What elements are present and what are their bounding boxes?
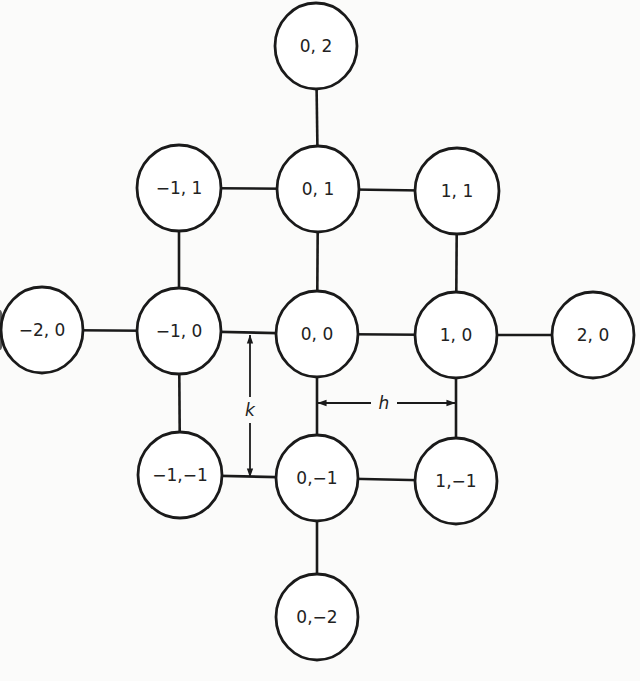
node-label: 0, 0 [301,324,333,344]
dimension-label-h: h [379,393,390,413]
node-label: 2, 0 [577,325,609,345]
node-label: 1, 0 [440,325,472,345]
node-label: 0,−1 [296,468,337,488]
grid-node-0_m1: 0,−1 [276,435,358,521]
grid-node-1_1: 1, 1 [415,148,499,234]
dimension-h: h [318,393,455,413]
node-label: −1, 0 [156,321,203,341]
node-label: 1, 1 [441,181,473,201]
grid-node-0_0: 0, 0 [276,291,358,377]
grid-node-1_m1: 1,−1 [415,438,497,524]
grid-node-0_1: 0, 1 [277,146,359,232]
dimension-label-k: k [245,400,256,420]
grid-node-m1_0: −1, 0 [137,288,221,374]
grid-node-0_m2: 0,−2 [276,574,358,660]
grid-node-m1_m1: −1,−1 [138,432,222,518]
grid-node-m2_0: −2, 0 [1,287,83,373]
grid-node-0_2: 0, 2 [275,3,357,89]
node-label: 0,−2 [296,607,337,627]
finite-difference-grid-diagram: kh 0, 2−1, 10, 11, 1−2, 0−1, 00, 01, 02,… [0,0,640,681]
dimension-k: k [245,335,256,477]
grid-node-1_0: 1, 0 [415,292,497,378]
node-label: 0, 1 [302,179,334,199]
grid-node-m1_1: −1, 1 [137,145,221,231]
node-label: 0, 2 [300,36,332,56]
node-label: −1,−1 [152,465,208,485]
node-label: 1,−1 [435,471,476,491]
grid-node-2_0: 2, 0 [552,292,634,378]
node-label: −1, 1 [156,178,203,198]
node-label: −2, 0 [19,320,66,340]
